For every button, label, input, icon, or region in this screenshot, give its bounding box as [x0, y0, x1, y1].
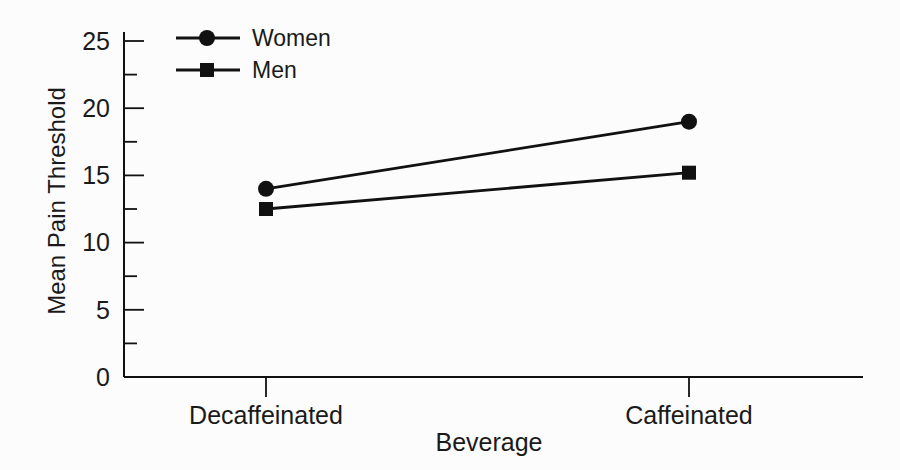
- y-tick-label-0: 0: [96, 363, 110, 391]
- y-tick-label-20: 20: [82, 94, 110, 122]
- x-axis-title: Beverage: [435, 428, 542, 456]
- legend-label-women: Women: [252, 25, 331, 51]
- men-point-caffeinated: [682, 166, 696, 180]
- y-tick-label-5: 5: [96, 296, 110, 324]
- y-tick-label-10: 10: [82, 228, 110, 256]
- y-tick-label-15: 15: [82, 161, 110, 189]
- x-tick-label-caffeinated: Caffeinated: [625, 401, 752, 429]
- interaction-plot-figure: 0510152025DecaffeinatedCaffeinatedWomenM…: [0, 0, 900, 470]
- legend-circle-marker-women: [199, 30, 215, 46]
- y-tick-label-25: 25: [82, 27, 110, 55]
- women-point-caffeinated: [681, 114, 697, 130]
- men-point-decaffeinated: [259, 202, 273, 216]
- legend-square-marker-men: [200, 63, 214, 77]
- legend-label-men: Men: [252, 57, 297, 83]
- chart-canvas: 0510152025DecaffeinatedCaffeinatedWomenM…: [0, 0, 900, 470]
- women-point-decaffeinated: [258, 181, 274, 197]
- x-tick-label-decaffeinated: Decaffeinated: [189, 401, 343, 429]
- y-axis-title: Mean Pain Threshold: [43, 87, 70, 315]
